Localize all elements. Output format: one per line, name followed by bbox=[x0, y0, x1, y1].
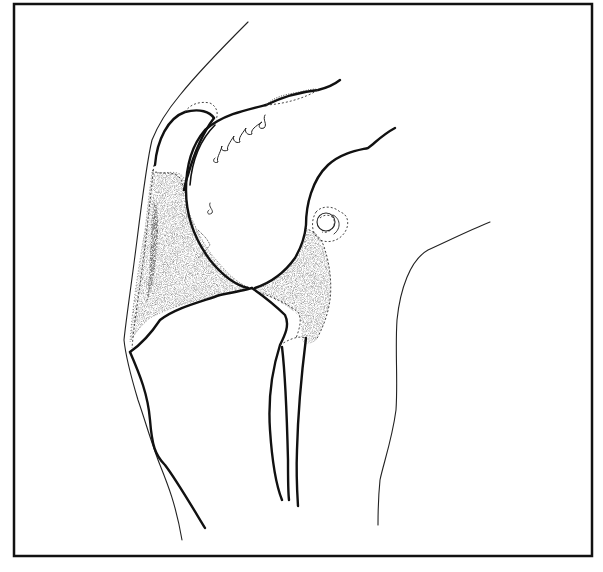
knee-diagram bbox=[0, 0, 603, 572]
fat-pad-stipple bbox=[130, 172, 248, 342]
fibula bbox=[280, 337, 306, 506]
tibia bbox=[130, 288, 287, 528]
posterior-skin-outline bbox=[378, 222, 490, 525]
knee-illustration bbox=[0, 0, 603, 572]
femur bbox=[186, 80, 395, 288]
posterior-stipple bbox=[255, 228, 331, 344]
